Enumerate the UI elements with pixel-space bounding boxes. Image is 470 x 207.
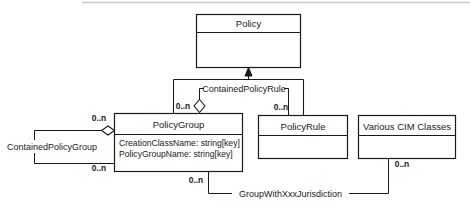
aggregation-diamond-icon — [194, 100, 205, 113]
multiplicity-policygroup-bottom: 0..n — [189, 175, 203, 185]
policygroup-class-name: PolicyGroup — [153, 119, 205, 130]
aggregation-diamond-self-icon — [102, 126, 115, 135]
generalization-arrowhead-icon — [245, 68, 252, 77]
class-box-policy-rule[interactable]: PolicyRule — [259, 116, 348, 159]
uml-class-diagram: Policy PolicyGroup CreationClassName: st… — [0, 0, 470, 207]
multiplicity-policygroup-aggregation-top: 0..n — [176, 101, 190, 111]
multiplicity-policygroup-self-lower: 0..n — [92, 163, 106, 173]
class-box-policy-group[interactable]: PolicyGroup CreationClassName: string[ke… — [115, 114, 243, 172]
association-label-group-with-xxx-jurisdiction: GroupWithXxxJurisdiction — [232, 187, 349, 200]
policygroup-attribute-creationclassname: CreationClassName: string[key] — [119, 138, 240, 148]
policyrule-class-name: PolicyRule — [281, 121, 326, 132]
policygroup-attribute-policygroupname: PolicyGroupName: string[key] — [119, 149, 233, 159]
variouscim-class-name: Various CIM Classes — [363, 121, 451, 132]
association-label-contained-policy-group: ContainedPolicyGroup — [1, 140, 103, 153]
containedpolicygroup-label: ContainedPolicyGroup — [7, 142, 97, 152]
groupwithxxxjurisdiction-label: GroupWithXxxJurisdiction — [239, 189, 342, 199]
association-label-contained-policy-rule: ContainedPolicyRule — [202, 82, 286, 94]
multiplicity-variouscim-bottom: 0..n — [395, 159, 409, 169]
containedpolicyrule-label: ContainedPolicyRule — [202, 84, 286, 94]
multiplicity-policyrule-top: 0..n — [274, 102, 288, 112]
diagram-canvas: Policy PolicyGroup CreationClassName: st… — [0, 0, 470, 207]
class-box-policy[interactable]: Policy — [197, 15, 301, 68]
multiplicity-policygroup-self-upper: 0..n — [92, 113, 106, 123]
class-box-various-cim-classes[interactable]: Various CIM Classes — [359, 116, 456, 159]
policy-class-name: Policy — [236, 18, 262, 29]
